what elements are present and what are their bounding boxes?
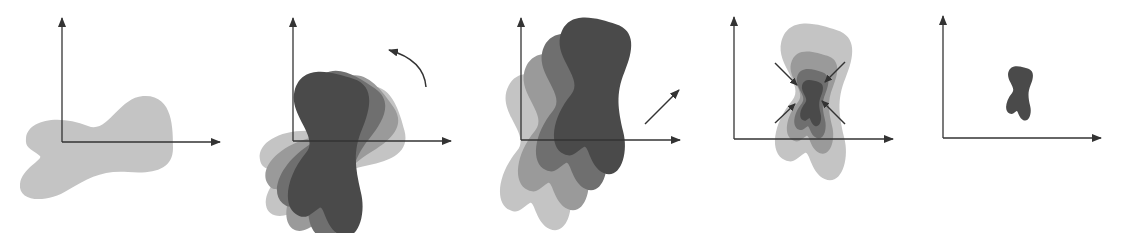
- shape-result: [996, 63, 1044, 122]
- panel-result: [943, 16, 1101, 138]
- panel-original: [20, 18, 220, 199]
- panel-rotation: [238, 18, 451, 233]
- shape-original: [20, 96, 173, 199]
- panel-translation: [470, 9, 680, 233]
- translate-arrow-icon: [645, 90, 679, 124]
- panel-scaling: [734, 15, 893, 184]
- rotate-arrow-icon: [389, 50, 426, 87]
- transformation-diagram: [0, 0, 1124, 233]
